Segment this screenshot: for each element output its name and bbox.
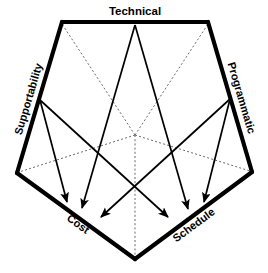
pentagon-diagram-canvas: Technical Supportability Programmatic Co…: [0, 0, 268, 273]
spoke-to-right: [135, 135, 250, 171]
label-technical: Technical: [109, 5, 161, 17]
label-cost: Cost: [65, 212, 92, 236]
edge-schedule: [135, 172, 252, 259]
spoke-to-top-left: [62, 24, 135, 135]
flow-programmatic-to-cost: [101, 99, 230, 217]
label-schedule: Schedule: [170, 205, 216, 244]
flow-supportability-to-schedule: [40, 100, 168, 217]
spoke-to-top-right: [135, 24, 208, 135]
flow-programmatic-to-schedule: [204, 99, 230, 202]
flow-technical-to-schedule: [135, 25, 188, 209]
pentagon-diagram: Technical Supportability Programmatic Co…: [0, 0, 268, 273]
influence-flows-group: [40, 25, 230, 217]
center-spokes-group: [19, 24, 250, 257]
spoke-to-left: [19, 135, 135, 172]
flow-supportability-to-cost: [40, 100, 67, 202]
